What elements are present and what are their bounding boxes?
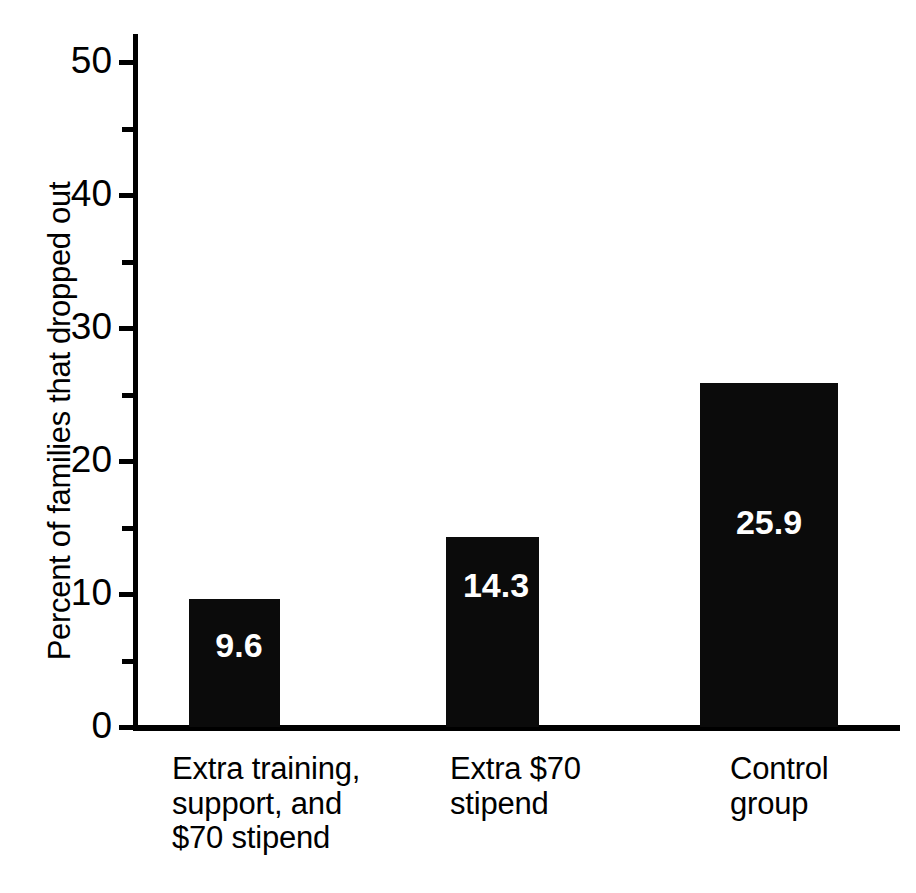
y-tick-label: 0 (0, 707, 112, 744)
y-tick-label: 30 (0, 308, 112, 345)
bar[interactable] (700, 383, 838, 727)
category-label-line: Extra training, (172, 752, 360, 787)
x-axis-category-label: Extra training,support, and$70 stipend (172, 752, 360, 856)
y-tick-major (119, 60, 138, 65)
x-axis-category-label: Extra $70stipend (450, 752, 581, 821)
category-label-line: support, and (172, 787, 360, 822)
y-tick-major (119, 326, 138, 331)
y-tick-minor (122, 127, 138, 132)
y-tick-label: 50 (0, 42, 112, 79)
y-tick-major (119, 193, 138, 198)
category-label-line: $70 stipend (172, 821, 360, 856)
category-label-line: Control (730, 752, 829, 787)
y-tick-minor (122, 526, 138, 531)
category-label-line: Extra $70 (450, 752, 581, 787)
y-tick-minor (122, 393, 138, 398)
y-tick-minor (122, 260, 138, 265)
category-label-line: group (730, 787, 829, 822)
category-label-line: stipend (450, 787, 581, 822)
bar-value-label: 14.3 (426, 568, 566, 602)
y-tick-label: 10 (0, 574, 112, 611)
y-axis-line (133, 34, 138, 731)
y-tick-major (119, 459, 138, 464)
x-axis-category-label: Controlgroup (730, 752, 829, 821)
bar-value-label: 9.6 (169, 628, 309, 662)
y-tick-label: 20 (0, 441, 112, 478)
y-tick-minor (122, 659, 138, 664)
y-tick-major (119, 725, 138, 730)
bar-value-label: 25.9 (699, 505, 839, 539)
y-tick-label: 40 (0, 175, 112, 212)
bar-chart: Percent of families that dropped out 010… (0, 0, 916, 893)
y-tick-major (119, 592, 138, 597)
